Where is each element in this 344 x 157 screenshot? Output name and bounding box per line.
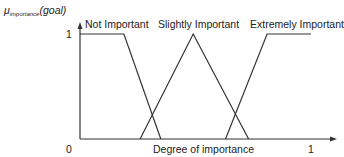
series-label-extremely-important: Extremely Important: [250, 18, 344, 30]
x-tick-0: 0: [66, 143, 72, 155]
x-axis-label: Degree of importance: [153, 143, 254, 155]
series-label-not-important: Not Important: [85, 18, 149, 30]
x-axis-arrow-icon: [330, 137, 337, 142]
series-group: [80, 34, 311, 139]
x-tick-1: 1: [308, 143, 314, 155]
series-label-slightly-important: Slightly Important: [158, 18, 239, 30]
y-tick-1: 1: [66, 28, 72, 40]
y-axis-arrow-icon: [78, 22, 83, 29]
series-line-extremely-important: [226, 34, 312, 139]
